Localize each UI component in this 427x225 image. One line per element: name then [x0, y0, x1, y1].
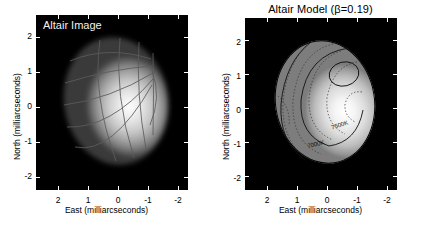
x-tick-label: -2: [375, 195, 399, 205]
image-plot-area: Altair Image: [36, 15, 188, 190]
image-x-axis-title: East (milliarcseconds): [0, 205, 213, 215]
panel-altair-model: Altair Model (β=0.19): [214, 0, 427, 225]
image-inplot-title: Altair Image: [43, 19, 102, 31]
y-tick-label: 2: [8, 31, 32, 41]
altair-figure: Altair Image 2 1 0 -1 -2 2 1 0 -: [0, 0, 427, 225]
x-tick-label: 1: [76, 195, 100, 205]
x-tick-label: 2: [46, 195, 70, 205]
model-plot-area: 7500K 7000K: [245, 18, 397, 190]
contour-hottest: [327, 59, 362, 90]
x-tick-label: -1: [345, 195, 369, 205]
y-tick-label: -2: [217, 173, 241, 183]
image-y-axis-title: North (milliarcseconds): [12, 73, 22, 160]
x-tick-label: 0: [315, 195, 339, 205]
model-panel-title: Altair Model (β=0.19): [214, 3, 427, 15]
x-tick-label: 0: [106, 195, 130, 205]
model-x-axis-title: East (milliarcseconds): [214, 205, 427, 215]
y-tick-label: 2: [217, 37, 241, 47]
x-tick-label: 1: [285, 195, 309, 205]
model-y-axis-title: North (milliarcseconds): [221, 73, 231, 160]
x-tick-label: -1: [136, 195, 160, 205]
panel-altair-image: Altair Image 2 1 0 -1 -2 2 1 0 -: [0, 0, 213, 225]
contour-7500k: [301, 48, 363, 146]
model-contour-overlay: [245, 18, 397, 190]
x-tick-label: 2: [255, 195, 279, 205]
grid-overlay: [36, 15, 188, 190]
x-tick-label: -2: [166, 195, 190, 205]
y-tick-label: -2: [8, 171, 32, 181]
